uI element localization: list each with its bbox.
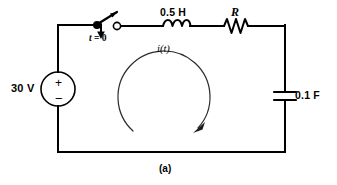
- switch-time-equals: =: [94, 33, 99, 43]
- switch-time-label: t = 0: [89, 34, 107, 44]
- current-loop-label: i(t): [157, 44, 170, 55]
- switch-time-value: 0: [102, 33, 107, 43]
- current-loop-arc: [118, 51, 210, 131]
- switch-open-terminal: [113, 22, 120, 29]
- circuit-diagram-figure: 30 V + − t = 0 0.5 H R 0.1 F i(t) (a): [0, 0, 337, 185]
- inductor-label: 0.5 H: [160, 7, 186, 18]
- resistor-label: R: [231, 6, 239, 18]
- inductor-coil: [163, 20, 191, 26]
- voltage-source-minus-sign: −: [55, 92, 63, 105]
- voltage-source-label: 30 V: [11, 83, 34, 94]
- current-loop-arrowhead: [193, 122, 205, 133]
- resistor-zigzag: [224, 19, 248, 33]
- switch-time-variable: t: [89, 33, 92, 43]
- voltage-source-plus-sign: +: [55, 77, 62, 89]
- circuit-schematic-svg: [0, 0, 337, 185]
- capacitor-label: 0.1 F: [295, 90, 320, 101]
- figure-caption: (a): [159, 164, 171, 174]
